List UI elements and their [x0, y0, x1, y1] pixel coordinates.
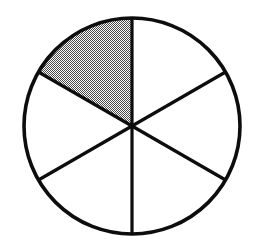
- figure-root: Fraction circle model A circle divided i…: [0, 0, 258, 250]
- fraction-circle-diagram: Fraction circle model A circle divided i…: [0, 0, 258, 250]
